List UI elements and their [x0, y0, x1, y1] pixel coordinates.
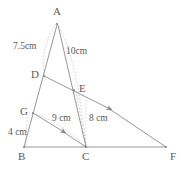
- geometry-diagram: A D E G B C F 7.5cm 10cm 9 cm 8 cm 4 cm: [0, 0, 184, 170]
- point-D: [43, 75, 45, 77]
- diagram-canvas: [0, 0, 184, 170]
- vertex-label-G: G: [20, 106, 28, 117]
- point-A: [56, 23, 58, 25]
- measurement-label-AD: 7.5cm: [13, 42, 36, 52]
- vertex-label-B: B: [18, 151, 25, 162]
- vertex-label-A: A: [53, 6, 61, 17]
- point-C: [85, 146, 87, 148]
- dashed-measure-EC: [76, 91, 86, 146]
- segment-DF-second-half: [108, 108, 166, 147]
- measurement-label-BG: 4 cm: [8, 128, 27, 138]
- point-F: [165, 146, 167, 148]
- vertex-label-C: C: [82, 151, 89, 162]
- measurement-label-EC: 8 cm: [89, 114, 108, 124]
- point-E: [73, 89, 75, 91]
- point-G: [32, 112, 34, 114]
- vertex-label-E: E: [79, 83, 86, 94]
- measurement-label-GC: 9 cm: [52, 114, 71, 124]
- segment-GC-second-half: [62, 131, 86, 147]
- measurement-label-AE: 10cm: [66, 47, 87, 57]
- point-B: [23, 146, 25, 148]
- segment-DF-first-half: [44, 76, 110, 109]
- vertex-label-D: D: [31, 69, 39, 80]
- vertex-label-F: F: [170, 151, 176, 162]
